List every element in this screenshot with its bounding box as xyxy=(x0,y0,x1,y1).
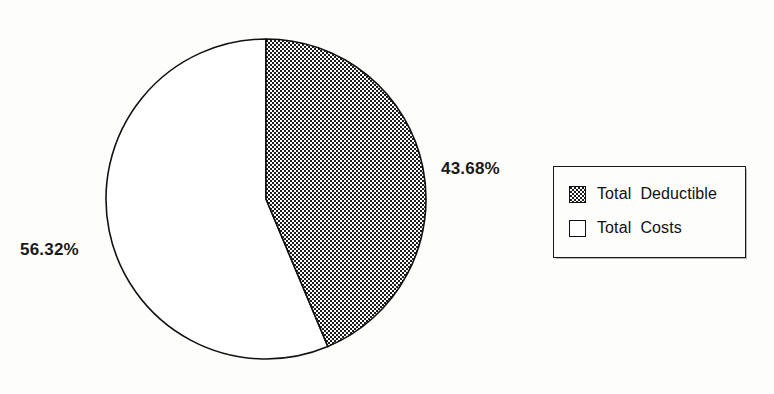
chart-legend: Total Deductible Total Costs xyxy=(553,166,746,258)
legend-item-label: Total Deductible xyxy=(597,185,717,203)
legend-item-total-costs[interactable]: Total Costs xyxy=(569,211,739,245)
slice-value-label-total-costs: 56.32% xyxy=(20,240,79,260)
legend-item-total-deductible[interactable]: Total Deductible xyxy=(569,177,739,211)
pie-chart-figure: 43.68% 56.32% Total Deductible Total Cos… xyxy=(0,0,774,394)
legend-item-label: Total Costs xyxy=(597,219,682,237)
legend-item-list: Total Deductible Total Costs xyxy=(569,177,739,245)
pie-svg xyxy=(100,32,434,366)
slice-value-label-total-deductible: 43.68% xyxy=(441,159,500,179)
empty-swatch-icon xyxy=(569,220,586,237)
crosshatch-swatch-icon xyxy=(569,186,586,203)
pie-plot-area xyxy=(100,32,434,366)
